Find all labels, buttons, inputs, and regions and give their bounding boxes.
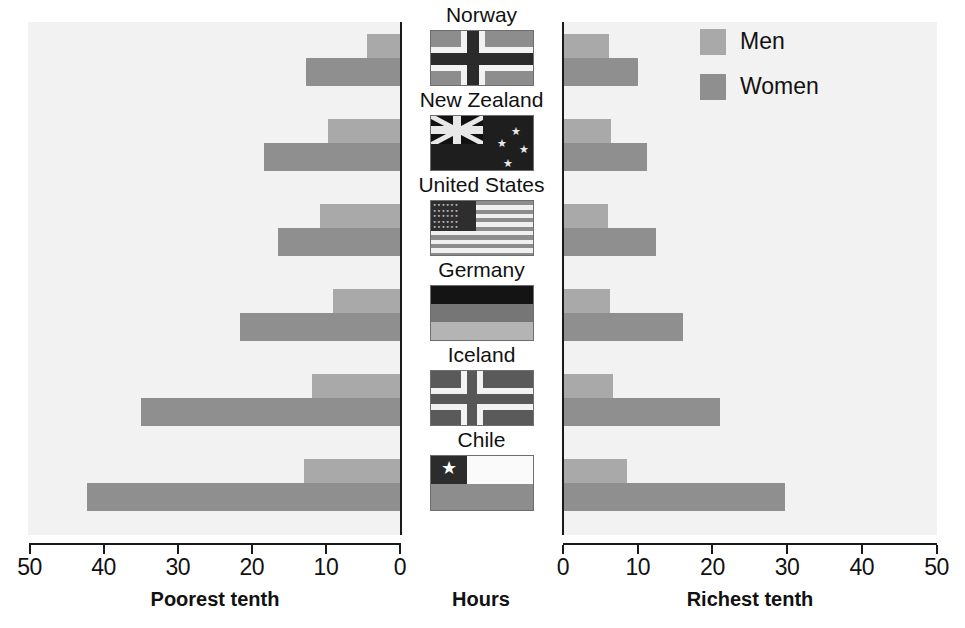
right-axis-tick — [861, 545, 863, 554]
paired-bar-chart: 5040302010001020304050 Poorest tenth Hou… — [0, 0, 965, 628]
bar-poorest-men — [328, 119, 400, 143]
right-axis-tick-label: 10 — [625, 554, 650, 581]
bar-richest-men — [563, 374, 613, 398]
left-axis-tick-label: 0 — [394, 554, 406, 581]
bar-poorest-men — [320, 204, 400, 228]
left-axis-tick — [325, 545, 327, 554]
left-axis-tick — [29, 545, 31, 554]
flag-icon-norway — [430, 30, 534, 86]
bar-richest-men — [563, 34, 609, 58]
bar-richest-men — [563, 119, 611, 143]
left-axis-tick-label: 10 — [314, 554, 339, 581]
legend-item-men: Men — [700, 28, 819, 55]
bar-richest-women — [563, 143, 647, 171]
flag-icon-new-zealand: ★★★★ — [430, 115, 534, 171]
country-block: Norway — [400, 3, 563, 86]
left-axis-tick-label: 30 — [165, 554, 190, 581]
bar-richest-men — [563, 289, 610, 313]
country-block: New Zealand★★★★ — [400, 88, 563, 171]
country-label: Iceland — [400, 343, 563, 367]
right-axis-horizontal-line — [563, 543, 937, 545]
right-axis-tick — [637, 545, 639, 554]
left-axis-tick — [251, 545, 253, 554]
bar-poorest-men — [304, 459, 400, 483]
legend-item-women: Women — [700, 73, 819, 100]
left-axis-tick — [177, 545, 179, 554]
bar-richest-men — [563, 204, 608, 228]
right-axis-title: Richest tenth — [687, 588, 814, 611]
country-block: Iceland — [400, 343, 563, 426]
flag-icon-chile: ★ — [430, 455, 534, 511]
legend: Men Women — [700, 28, 819, 118]
legend-swatch-women-icon — [700, 74, 726, 100]
country-label: United States — [400, 173, 563, 197]
bar-poorest-women — [306, 58, 400, 86]
legend-label-women: Women — [740, 73, 819, 100]
center-axis-title: Hours — [452, 588, 510, 611]
left-axis-tick — [103, 545, 105, 554]
left-axis-tick-label: 40 — [91, 554, 116, 581]
right-axis-tick — [562, 545, 564, 554]
country-block: Germany — [400, 258, 563, 341]
bar-poorest-men — [312, 374, 400, 398]
bar-poorest-women — [87, 483, 400, 511]
bar-richest-men — [563, 459, 627, 483]
bar-richest-women — [563, 58, 638, 86]
country-label: Germany — [400, 258, 563, 282]
country-label: New Zealand — [400, 88, 563, 112]
right-axis-tick-label: 20 — [700, 554, 725, 581]
left-axis-tick-label: 20 — [240, 554, 265, 581]
left-axis-horizontal-line — [29, 543, 401, 545]
right-axis-tick-label: 40 — [850, 554, 875, 581]
right-axis-tick — [936, 545, 938, 554]
right-axis-tick-label: 30 — [775, 554, 800, 581]
country-block: United States***************************… — [400, 173, 563, 256]
bar-poorest-women — [264, 143, 400, 171]
bar-richest-women — [563, 313, 683, 341]
flag-icon-united-states: ****************************** — [430, 200, 534, 256]
left-axis-tick-label: 50 — [17, 554, 42, 581]
flag-icon-iceland — [430, 370, 534, 426]
flag-icon-germany — [430, 285, 534, 341]
bar-poorest-women — [278, 228, 400, 256]
country-block: Chile★ — [400, 428, 563, 511]
right-axis-tick — [711, 545, 713, 554]
left-axis-title: Poorest tenth — [151, 588, 280, 611]
country-label: Norway — [400, 3, 563, 27]
left-axis-tick — [399, 545, 401, 554]
bar-poorest-women — [240, 313, 400, 341]
bar-poorest-women — [141, 398, 400, 426]
country-label: Chile — [400, 428, 563, 452]
bar-poorest-men — [333, 289, 400, 313]
right-axis-tick-label: 50 — [924, 554, 949, 581]
legend-label-men: Men — [740, 28, 785, 55]
bar-richest-women — [563, 228, 656, 256]
bar-richest-women — [563, 483, 785, 511]
bar-richest-women — [563, 398, 720, 426]
right-axis-tick-label: 0 — [557, 554, 569, 581]
bar-poorest-men — [367, 34, 400, 58]
legend-swatch-men-icon — [700, 29, 726, 55]
right-axis-tick — [786, 545, 788, 554]
